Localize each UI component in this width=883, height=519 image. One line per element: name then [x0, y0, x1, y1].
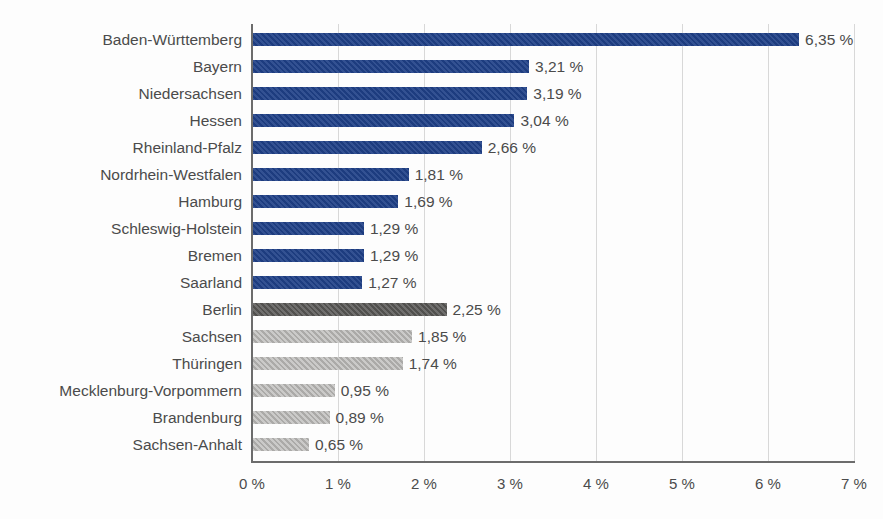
- category-label: Niedersachsen: [0, 80, 242, 107]
- bar-row: Saarland1,27 %: [0, 269, 883, 296]
- category-label: Berlin: [0, 296, 242, 323]
- bar: [253, 249, 364, 262]
- bar-row: Baden-Württemberg6,35 %: [0, 26, 883, 53]
- category-label: Hessen: [0, 107, 242, 134]
- bar: [253, 222, 364, 235]
- bar: [253, 438, 309, 451]
- category-label: Hamburg: [0, 188, 242, 215]
- bar: [253, 33, 799, 46]
- category-label: Rheinland-Pfalz: [0, 134, 242, 161]
- bar-value-label: 1,85 %: [418, 323, 466, 350]
- category-label: Mecklenburg-Vorpommern: [0, 377, 242, 404]
- bar-value-label: 1,81 %: [415, 161, 463, 188]
- bar-row: Hessen3,04 %: [0, 107, 883, 134]
- x-tick-label: 7 %: [841, 474, 867, 494]
- bar-row: Berlin2,25 %: [0, 296, 883, 323]
- bar-value-label: 2,66 %: [488, 134, 536, 161]
- bar-value-label: 1,29 %: [370, 215, 418, 242]
- bar-row: Niedersachsen3,19 %: [0, 80, 883, 107]
- x-tick-label: 5 %: [669, 474, 695, 494]
- bar: [253, 87, 527, 100]
- bar-row: Rheinland-Pfalz2,66 %: [0, 134, 883, 161]
- bar-row: Bremen1,29 %: [0, 242, 883, 269]
- x-axis-line: [251, 461, 855, 463]
- bar: [253, 384, 335, 397]
- bar-value-label: 0,89 %: [336, 404, 384, 431]
- category-label: Baden-Württemberg: [0, 26, 242, 53]
- bar-value-label: 3,21 %: [535, 53, 583, 80]
- category-label: Sachsen: [0, 323, 242, 350]
- bar-value-label: 0,65 %: [315, 431, 363, 458]
- bar: [253, 303, 447, 316]
- bar: [253, 357, 403, 370]
- x-tick-label: 6 %: [755, 474, 781, 494]
- bar-value-label: 1,27 %: [368, 269, 416, 296]
- category-label: Bayern: [0, 53, 242, 80]
- category-label: Sachsen-Anhalt: [0, 431, 242, 458]
- bar: [253, 60, 529, 73]
- bar-row: Brandenburg0,89 %: [0, 404, 883, 431]
- x-tick-label: 2 %: [411, 474, 437, 494]
- category-label: Thüringen: [0, 350, 242, 377]
- category-label: Saarland: [0, 269, 242, 296]
- x-tick-label: 3 %: [497, 474, 523, 494]
- x-tick-label: 1 %: [325, 474, 351, 494]
- bar-value-label: 2,25 %: [453, 296, 501, 323]
- bar: [253, 330, 412, 343]
- category-label: Schleswig-Holstein: [0, 215, 242, 242]
- bar-value-label: 3,04 %: [520, 107, 568, 134]
- bar-row: Bayern3,21 %: [0, 53, 883, 80]
- category-label: Bremen: [0, 242, 242, 269]
- bar-value-label: 0,95 %: [341, 377, 389, 404]
- bar: [253, 276, 362, 289]
- bar-row: Thüringen1,74 %: [0, 350, 883, 377]
- x-tick-label: 0 %: [239, 474, 265, 494]
- bar-row: Schleswig-Holstein1,29 %: [0, 215, 883, 242]
- bar-row: Hamburg1,69 %: [0, 188, 883, 215]
- bar: [253, 114, 514, 127]
- bar-row: Nordrhein-Westfalen1,81 %: [0, 161, 883, 188]
- bar-value-label: 1,74 %: [409, 350, 457, 377]
- bar-value-label: 1,29 %: [370, 242, 418, 269]
- bar: [253, 168, 409, 181]
- category-label: Nordrhein-Westfalen: [0, 161, 242, 188]
- bar-value-label: 1,69 %: [404, 188, 452, 215]
- bar: [253, 195, 398, 208]
- bar-value-label: 6,35 %: [805, 26, 853, 53]
- bar-row: Mecklenburg-Vorpommern0,95 %: [0, 377, 883, 404]
- bar-chart: Baden-Württemberg6,35 %Bayern3,21 %Niede…: [0, 0, 883, 519]
- bar-value-label: 3,19 %: [533, 80, 581, 107]
- bar-row: Sachsen-Anhalt0,65 %: [0, 431, 883, 458]
- bar: [253, 411, 330, 424]
- bar: [253, 141, 482, 154]
- category-label: Brandenburg: [0, 404, 242, 431]
- bar-row: Sachsen1,85 %: [0, 323, 883, 350]
- x-tick-label: 4 %: [583, 474, 609, 494]
